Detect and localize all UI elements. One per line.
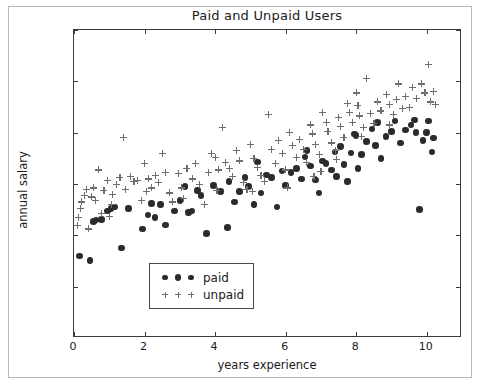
x-tick-label: 8 <box>352 340 359 353</box>
plot-area <box>73 29 461 337</box>
data-point-unpaid <box>249 188 256 195</box>
y-tick-mark-right <box>456 81 460 82</box>
chart-legend[interactable]: paid unpaid <box>149 263 254 309</box>
data-point-paid <box>378 155 385 162</box>
data-point-unpaid <box>81 192 88 199</box>
data-point-paid <box>152 214 159 221</box>
data-point-unpaid <box>229 173 236 180</box>
data-point-unpaid <box>166 189 173 196</box>
data-point-unpaid <box>192 160 199 167</box>
data-point-unpaid <box>250 155 257 162</box>
data-point-unpaid <box>213 187 220 194</box>
y-tick-mark-right <box>456 30 460 31</box>
data-point-unpaid <box>152 172 159 179</box>
data-point-unpaid <box>377 107 384 114</box>
legend-item-paid[interactable]: paid <box>157 269 244 286</box>
y-tick-mark-right <box>456 287 460 288</box>
y-tick-mark <box>74 30 78 31</box>
chart-figure: Paid and Unpaid Users annual salary year… <box>0 0 480 385</box>
y-tick-mark-right <box>456 235 460 236</box>
data-point-unpaid <box>289 142 296 149</box>
legend-item-unpaid[interactable]: unpaid <box>157 286 244 303</box>
data-point-paid <box>344 178 351 185</box>
legend-label-paid: paid <box>199 271 229 285</box>
data-point-unpaid <box>138 197 145 204</box>
x-tick-mark <box>356 332 357 336</box>
data-point-unpaid <box>95 166 102 173</box>
data-point-unpaid <box>356 112 363 119</box>
data-point-unpaid <box>109 191 116 198</box>
data-point-unpaid <box>169 198 176 205</box>
data-point-unpaid <box>155 179 162 186</box>
data-point-paid <box>87 257 94 264</box>
data-point-paid <box>298 176 305 183</box>
data-point-paid <box>411 117 418 124</box>
data-point-unpaid <box>317 168 324 175</box>
data-point-unpaid <box>399 105 406 112</box>
data-point-unpaid <box>340 134 347 141</box>
data-point-unpaid <box>360 124 367 131</box>
data-point-unpaid <box>183 165 190 172</box>
data-point-unpaid <box>120 134 127 141</box>
data-point-paid <box>274 204 281 211</box>
legend-marker-paid <box>157 271 199 285</box>
data-point-unpaid <box>219 124 226 131</box>
data-point-paid <box>203 230 210 237</box>
data-point-paid <box>76 253 83 260</box>
data-point-unpaid <box>265 111 272 118</box>
data-point-paid <box>268 174 275 181</box>
data-point-unpaid <box>296 136 303 143</box>
data-point-unpaid <box>349 119 356 126</box>
data-point-unpaid <box>74 222 81 229</box>
data-point-paid <box>425 118 432 125</box>
data-point-unpaid <box>145 175 152 182</box>
data-point-unpaid <box>175 170 182 177</box>
data-point-unpaid <box>432 101 439 108</box>
data-point-unpaid <box>363 75 370 82</box>
data-point-unpaid <box>284 184 291 191</box>
x-tick-label: 6 <box>281 340 288 353</box>
x-tick-label: 0 <box>70 340 77 353</box>
data-point-paid <box>316 190 323 197</box>
x-tick-label: 4 <box>211 340 218 353</box>
data-point-unpaid <box>293 154 300 161</box>
data-point-unpaid <box>104 177 111 184</box>
data-point-paid <box>139 226 146 233</box>
data-point-paid <box>224 224 231 231</box>
data-point-paid <box>388 128 395 135</box>
data-point-paid <box>341 161 348 168</box>
data-point-paid <box>125 205 132 212</box>
x-tick-mark-top <box>356 30 357 34</box>
x-axis-label: years experience <box>73 358 461 372</box>
data-point-unpaid <box>316 151 323 158</box>
data-point-unpaid <box>425 61 432 68</box>
data-point-unpaid <box>332 147 339 154</box>
data-point-unpaid <box>261 178 268 185</box>
data-point-paid <box>157 201 164 208</box>
x-tick-mark-top <box>215 30 216 34</box>
data-point-paid <box>171 208 178 215</box>
data-point-unpaid <box>272 160 279 167</box>
data-point-unpaid <box>421 89 428 96</box>
data-point-unpaid <box>78 198 85 205</box>
data-point-unpaid <box>143 188 150 195</box>
data-point-paid <box>98 216 105 223</box>
data-point-paid <box>402 127 409 134</box>
data-point-paid <box>145 212 152 219</box>
data-point-unpaid <box>333 156 340 163</box>
x-tick-label: 2 <box>140 340 147 353</box>
legend-label-unpaid: unpaid <box>199 288 244 302</box>
data-point-unpaid <box>233 147 240 154</box>
data-point-paid <box>162 222 169 229</box>
data-point-unpaid <box>85 225 92 232</box>
data-point-unpaid <box>395 80 402 87</box>
data-point-unpaid <box>98 210 105 217</box>
y-axis-label: annual salary <box>16 120 30 260</box>
data-point-unpaid <box>75 214 82 221</box>
data-point-unpaid <box>162 169 169 176</box>
x-tick-mark <box>286 332 287 336</box>
data-point-paid <box>333 173 340 180</box>
data-point-unpaid <box>77 205 84 212</box>
data-point-unpaid <box>312 141 319 148</box>
data-point-unpaid <box>393 96 400 103</box>
